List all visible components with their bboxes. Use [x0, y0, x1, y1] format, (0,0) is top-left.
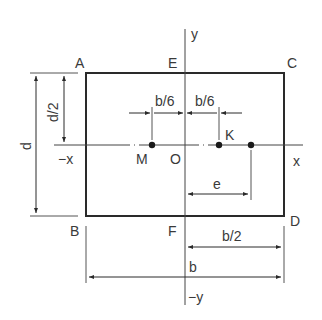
label-point-f: F	[168, 223, 177, 239]
label-corner-a: A	[75, 55, 85, 71]
label-axis-neg-x: −x	[58, 151, 73, 167]
label-b-half: b/2	[222, 228, 242, 244]
label-point-m: M	[136, 151, 148, 167]
label-axis-x: x	[293, 153, 300, 169]
point-load	[248, 142, 254, 148]
label-axis-neg-y: −y	[188, 289, 203, 305]
label-corner-c: C	[287, 55, 297, 71]
label-point-e: E	[168, 55, 177, 71]
point-m	[149, 142, 155, 148]
label-d: d	[18, 142, 34, 150]
label-e: e	[213, 176, 221, 192]
section-diagram: A C B D E F O y −y x −x M K b/6 b/6 e b/…	[0, 0, 322, 320]
label-b-sixth-right: b/6	[195, 93, 215, 109]
label-point-k: K	[225, 127, 235, 143]
label-corner-b: B	[70, 223, 79, 239]
point-k	[216, 142, 222, 148]
label-axis-y: y	[191, 26, 198, 42]
label-b-sixth-left: b/6	[155, 93, 175, 109]
label-b: b	[189, 259, 197, 275]
label-origin-o: O	[170, 151, 181, 167]
label-corner-d: D	[290, 213, 300, 229]
label-d-half: d/2	[45, 102, 61, 122]
